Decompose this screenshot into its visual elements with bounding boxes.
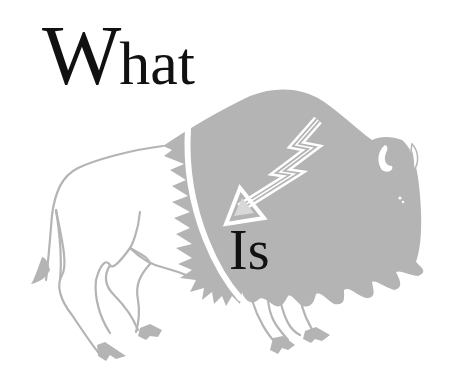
heading-what: What xyxy=(42,14,195,98)
eye xyxy=(398,196,401,199)
heading-is: Is xyxy=(229,222,269,278)
hooves xyxy=(97,324,330,361)
bison-forequarters xyxy=(163,89,423,306)
heading-what-initial: W xyxy=(42,9,119,102)
heading-what-rest: hat xyxy=(119,29,195,97)
